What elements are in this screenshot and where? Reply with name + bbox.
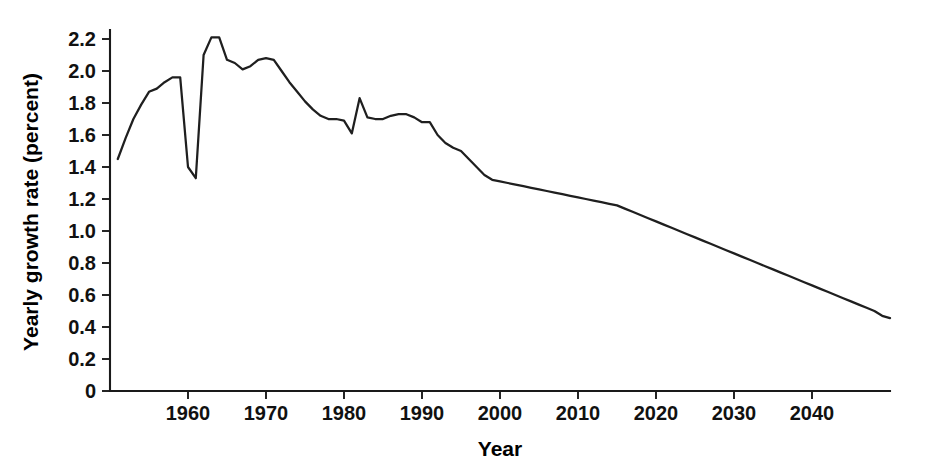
x-tick-label: 1990 [400,402,445,424]
y-tick-label: 2.2 [68,28,96,50]
y-tick-label: 0.8 [68,252,96,274]
chart-canvas: 00.20.40.60.81.01.21.41.61.82.02.2 19601… [0,0,926,471]
y-axis-group: 00.20.40.60.81.01.21.41.61.82.02.2 [68,28,110,402]
y-tick-label: 0.2 [68,348,96,370]
y-axis-ticks [102,39,110,391]
x-axis-group: 196019701980199020002010202020302040 [110,391,890,424]
y-tick-label: 1.8 [68,92,96,114]
y-tick-label: 0 [85,380,96,402]
growth-rate-line [118,37,890,318]
y-tick-label: 1.2 [68,188,96,210]
x-tick-label: 1960 [166,402,211,424]
x-tick-label: 2000 [478,402,523,424]
y-tick-label: 1.6 [68,124,96,146]
y-tick-label: 0.6 [68,284,96,306]
growth-rate-chart: 00.20.40.60.81.01.21.41.61.82.02.2 19601… [0,0,926,471]
y-tick-label: 2.0 [68,60,96,82]
x-axis-ticks [188,391,812,399]
x-axis-title: Year [478,437,522,460]
y-tick-label: 1.0 [68,220,96,242]
x-tick-label: 2030 [712,402,757,424]
y-axis-tick-labels: 00.20.40.60.81.01.21.41.61.82.02.2 [68,28,97,402]
x-tick-label: 2020 [634,402,679,424]
x-tick-label: 2040 [790,402,835,424]
x-tick-label: 2010 [556,402,601,424]
y-tick-label: 1.4 [68,156,97,178]
y-axis-title: Yearly growth rate (percent) [19,73,42,351]
x-tick-label: 1980 [322,402,367,424]
y-tick-label: 0.4 [68,316,97,338]
x-axis-tick-labels: 196019701980199020002010202020302040 [166,402,835,424]
x-tick-label: 1970 [244,402,289,424]
